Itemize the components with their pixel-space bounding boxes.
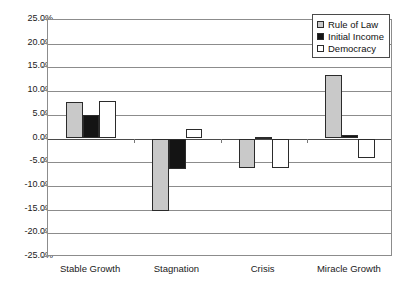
bar-rule-of-law-stagnation <box>152 139 169 211</box>
legend-swatch-icon-rule-of-law <box>317 21 324 28</box>
legend-item-democracy[interactable]: Democracy <box>317 42 384 54</box>
legend-item-rule-of-law[interactable]: Rule of Law <box>317 18 384 30</box>
gridline <box>48 162 391 163</box>
legend-swatch-icon-initial-income <box>317 33 324 40</box>
bar-rule-of-law-stable-growth <box>66 102 83 138</box>
bar-democracy-crisis <box>272 139 289 169</box>
gridline <box>48 67 391 68</box>
bar-initial-income-stagnation <box>169 139 186 169</box>
bar-initial-income-stable-growth <box>83 115 100 139</box>
bar-chart: 25.0%20.0%15.0%10.0%5.0%0.0%-5.0%-10.0%-… <box>0 0 405 294</box>
zero-line <box>48 139 391 140</box>
legend-label-initial-income: Initial Income <box>328 31 384 42</box>
gridline <box>48 233 391 234</box>
bar-democracy-miracle-growth <box>358 139 375 159</box>
x-axis-tick-label: Stable Growth <box>47 263 133 274</box>
legend-label-democracy: Democracy <box>328 43 376 54</box>
bar-rule-of-law-miracle-growth <box>325 75 342 139</box>
bar-initial-income-miracle-growth <box>342 135 359 138</box>
gridline <box>48 210 391 211</box>
gridline <box>48 186 391 187</box>
x-axis-tick-label: Crisis <box>220 263 306 274</box>
category-tick <box>134 139 135 143</box>
bar-initial-income-crisis <box>255 137 272 139</box>
legend-swatch-icon-democracy <box>317 45 324 52</box>
legend: Rule of Law Initial Income Democracy <box>312 14 390 58</box>
category-tick <box>307 139 308 143</box>
bar-democracy-stagnation <box>186 129 203 139</box>
category-tick <box>221 139 222 143</box>
bar-democracy-stable-growth <box>99 101 116 139</box>
bar-rule-of-law-crisis <box>239 139 256 169</box>
x-axis-tick-label: Stagnation <box>133 263 219 274</box>
legend-label-rule-of-law: Rule of Law <box>328 19 378 30</box>
legend-item-initial-income[interactable]: Initial Income <box>317 30 384 42</box>
x-axis-tick-label: Miracle Growth <box>306 263 392 274</box>
